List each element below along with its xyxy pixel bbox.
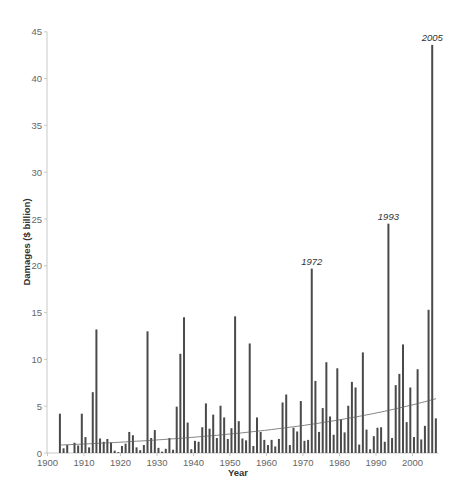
bar xyxy=(110,443,112,453)
bar xyxy=(311,269,313,453)
bar-chart: 051015202530354045 190019101920193019401… xyxy=(0,0,451,493)
bar xyxy=(147,331,149,453)
bar xyxy=(216,438,218,453)
bar xyxy=(209,429,211,453)
y-axis-title: Damages ($ billion) xyxy=(21,198,32,285)
bar xyxy=(424,426,426,453)
bar xyxy=(333,435,335,453)
bar xyxy=(143,445,145,453)
bar xyxy=(355,387,357,453)
bar xyxy=(161,452,163,453)
bar xyxy=(420,439,422,453)
bar xyxy=(303,441,305,453)
bar xyxy=(234,316,236,453)
bar xyxy=(322,408,324,453)
bar xyxy=(154,430,156,453)
x-axis: 1900191019201930194019501960197019801990… xyxy=(37,453,438,468)
bar xyxy=(227,439,229,453)
bar xyxy=(99,438,101,453)
bar xyxy=(168,438,170,453)
x-tick-label: 1990 xyxy=(365,457,386,468)
bar xyxy=(395,385,397,453)
bar xyxy=(103,442,105,453)
bar xyxy=(406,422,408,453)
y-tick-label: 15 xyxy=(31,307,42,318)
x-tick-label: 1910 xyxy=(73,457,94,468)
bar xyxy=(336,368,338,453)
bar xyxy=(81,414,83,453)
bar xyxy=(63,448,65,453)
bar xyxy=(413,437,415,453)
bar xyxy=(289,445,291,453)
bar xyxy=(300,401,302,453)
bar xyxy=(369,449,371,453)
bar xyxy=(88,447,90,453)
bar xyxy=(95,329,97,453)
bar xyxy=(77,446,79,453)
x-tick-label: 1930 xyxy=(146,457,167,468)
bar xyxy=(190,449,192,453)
bars xyxy=(59,45,437,453)
bar xyxy=(106,439,108,453)
bar xyxy=(220,406,222,453)
bar xyxy=(271,440,273,453)
bar xyxy=(329,416,331,453)
y-tick-label: 30 xyxy=(31,167,42,178)
bar xyxy=(428,310,430,453)
bar xyxy=(66,445,68,453)
bar xyxy=(366,430,368,453)
x-tick-label: 1920 xyxy=(110,457,131,468)
y-tick-label: 25 xyxy=(31,214,42,225)
x-tick-label: 2000 xyxy=(402,457,423,468)
bar xyxy=(117,452,119,453)
annotations: 197219932005 xyxy=(301,32,443,267)
y-tick-label: 20 xyxy=(31,260,42,271)
annotation-label: 1972 xyxy=(301,256,323,267)
bar xyxy=(201,427,203,453)
bar xyxy=(285,395,287,454)
bar xyxy=(267,445,269,453)
bar xyxy=(194,441,196,453)
bar xyxy=(114,451,116,453)
bar xyxy=(358,445,360,453)
y-tick-label: 5 xyxy=(37,401,42,412)
bar xyxy=(362,352,364,453)
bar xyxy=(373,436,375,453)
bar xyxy=(256,417,258,453)
y-tick-label: 40 xyxy=(31,73,42,84)
bar xyxy=(125,444,127,453)
bar xyxy=(260,432,262,453)
y-tick-label: 35 xyxy=(31,120,42,131)
bar xyxy=(183,317,185,453)
bar xyxy=(241,438,243,453)
x-tick-label: 1960 xyxy=(256,457,277,468)
annotation-label: 2005 xyxy=(421,32,444,43)
bar xyxy=(245,440,247,453)
bar xyxy=(380,427,382,453)
bar xyxy=(59,414,61,453)
bar xyxy=(431,45,433,453)
bar xyxy=(307,440,309,453)
bar xyxy=(325,362,327,453)
bar xyxy=(198,442,200,453)
bar xyxy=(252,446,254,453)
bar xyxy=(435,418,437,453)
bar xyxy=(314,381,316,453)
bar xyxy=(278,439,280,453)
bar xyxy=(376,428,378,453)
bar xyxy=(296,431,298,453)
bar xyxy=(128,432,130,453)
x-axis-title: Year xyxy=(228,467,248,478)
bar xyxy=(402,344,404,453)
bar xyxy=(347,406,349,453)
annotation-label: 1993 xyxy=(378,211,400,222)
y-axis: 051015202530354045 xyxy=(31,26,47,458)
bar xyxy=(238,421,240,453)
x-tick-label: 1900 xyxy=(37,457,58,468)
bar xyxy=(121,446,123,453)
bar xyxy=(172,450,174,453)
bar xyxy=(344,432,346,453)
x-tick-label: 1970 xyxy=(292,457,313,468)
bar xyxy=(230,428,232,453)
bar xyxy=(340,419,342,453)
